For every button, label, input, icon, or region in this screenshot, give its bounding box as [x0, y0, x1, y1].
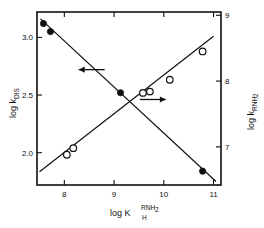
svg-text:log kRNH2: log kRNH2: [246, 93, 259, 130]
svg-text:log K: log K: [110, 208, 131, 218]
scatter-plot: 8910112.02.53.0789 log K H RNH2 log kDIS…: [0, 0, 264, 228]
data-point-open: [64, 151, 71, 158]
data-point-open: [166, 76, 173, 83]
axis-ticks: [37, 12, 221, 185]
data-point-open: [70, 145, 77, 152]
data-point-filled: [200, 168, 206, 174]
right-y-axis-title-base: log k: [246, 110, 256, 130]
data-point-open: [140, 90, 147, 97]
right-y-axis-title-sub-sub: 2: [252, 93, 259, 97]
x-axis-title-sup: RNH: [141, 204, 155, 211]
arrow-to-right-axis-head: [160, 96, 166, 102]
x-axis-title: log K H RNH2: [110, 204, 159, 221]
left-y-tick-label: 3.0: [22, 33, 34, 42]
figure-container: 8910112.02.53.0789 log K H RNH2 log kDIS…: [0, 0, 264, 228]
right-y-tick-label: 7: [225, 143, 230, 152]
x-tick-label: 8: [62, 190, 67, 199]
right-y-axis-title: log kRNH2: [246, 93, 259, 130]
data-point-filled: [117, 90, 123, 96]
annotations-group: [79, 67, 166, 103]
plot-frame: [37, 12, 221, 185]
x-tick-label: 9: [112, 190, 117, 199]
svg-text:H: H: [142, 214, 147, 221]
left-y-tick-label: 2.0: [22, 149, 34, 158]
left-y-axis-title: log kDIS: [8, 87, 20, 118]
left-y-axis-title-sub: DIS: [13, 87, 20, 99]
data-point-filled: [40, 20, 46, 26]
x-axis-title-sub: H: [142, 214, 147, 221]
data-point-open: [199, 48, 206, 55]
svg-text:RNH2: RNH2: [141, 204, 159, 213]
data-series-group: [39, 19, 216, 182]
data-point-open: [147, 88, 154, 95]
right-y-tick-label: 8: [225, 77, 230, 86]
x-tick-label: 11: [209, 190, 218, 199]
right-y-axis-title-sub: RNH: [251, 97, 258, 111]
right-y-tick-label: 9: [225, 11, 230, 20]
data-point-filled: [47, 29, 53, 35]
svg-text:log kDIS: log kDIS: [8, 87, 20, 118]
x-tick-label: 10: [159, 190, 168, 199]
left-y-axis-title-base: log k: [8, 98, 18, 118]
left-y-tick-label: 2.5: [22, 91, 34, 100]
x-axis-title-sup-sub: 2: [155, 206, 159, 213]
x-axis-title-base: log K: [110, 208, 131, 218]
arrow-to-left-axis-head: [79, 67, 85, 73]
